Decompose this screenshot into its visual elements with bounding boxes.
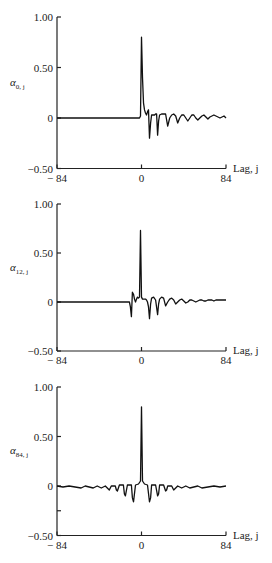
data-series-line <box>57 37 226 138</box>
panel-alpha-84: 1.000.500−0.50− 84084Lag, jα84, j <box>0 370 272 563</box>
x-tick-label: − 84 <box>47 354 67 366</box>
y-axis-label: α84, j <box>10 444 28 459</box>
y-tick-label: 0 <box>48 112 54 124</box>
chart-alpha-84: 1.000.500−0.50− 84084Lag, jα84, j <box>0 370 272 563</box>
y-axis-label: α0, j <box>10 76 25 91</box>
x-axis-label: Lag, j <box>233 344 259 356</box>
x-tick-label: 0 <box>139 539 145 551</box>
y-tick-label: 0.50 <box>34 62 54 74</box>
y-axis-label: α12, j <box>10 261 28 276</box>
x-tick-label: 84 <box>221 172 233 184</box>
y-tick-label: 1.00 <box>34 11 54 23</box>
y-tick-label: 1.00 <box>34 381 54 393</box>
chart-alpha-0: 1.000.500−0.50− 84084Lag, jα0, j <box>0 0 272 185</box>
x-tick-label: − 84 <box>47 172 67 184</box>
panel-alpha-12-chart: 1.000.500−0.50− 84084Lag, jα12, j <box>0 185 272 370</box>
y-tick-label: 0 <box>48 296 54 308</box>
x-tick-label: − 84 <box>47 539 67 551</box>
y-tick-label: 0 <box>48 480 54 492</box>
data-series-line <box>57 231 226 319</box>
x-tick-label: 84 <box>221 539 233 551</box>
panel-alpha-0: 1.000.500−0.50− 84084Lag, jα0, j <box>0 0 272 185</box>
x-tick-label: 84 <box>221 354 233 366</box>
y-tick-label: 1.00 <box>34 198 54 210</box>
data-series-line <box>57 407 226 502</box>
y-tick-label: 0.50 <box>34 247 54 259</box>
y-tick-label: 0.50 <box>34 431 54 443</box>
x-axis-label: Lag, j <box>233 162 259 174</box>
x-axis-label: Lag, j <box>233 529 259 541</box>
chart-alpha-12: 1.000.500−0.50− 84084Lag, jα12, j <box>0 185 272 370</box>
x-tick-label: 0 <box>139 354 145 366</box>
x-tick-label: 0 <box>139 172 145 184</box>
